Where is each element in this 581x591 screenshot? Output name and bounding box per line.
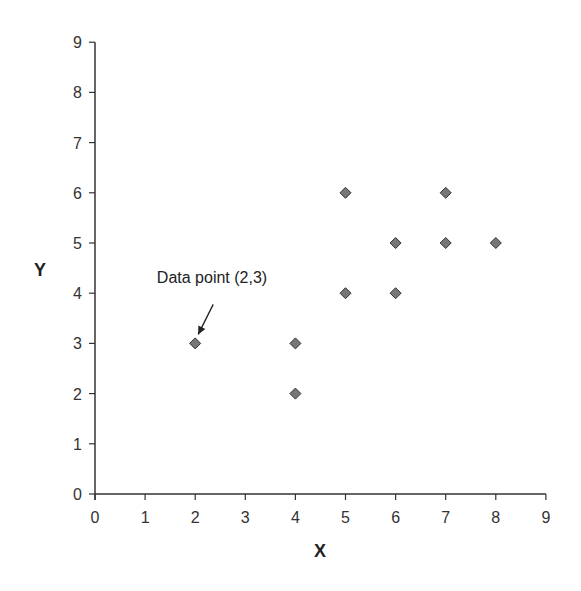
x-tick-label: 1 bbox=[141, 509, 150, 526]
scatter-chart: 01234567890123456789 Data point (2,3) X … bbox=[0, 0, 581, 591]
y-tick-label: 3 bbox=[73, 335, 82, 352]
data-point-marker bbox=[190, 338, 201, 349]
y-tick-label: 9 bbox=[73, 34, 82, 51]
x-tick-label: 6 bbox=[391, 509, 400, 526]
y-tick-label: 0 bbox=[73, 486, 82, 503]
data-point-marker bbox=[390, 288, 401, 299]
data-point-marker bbox=[440, 238, 451, 249]
data-point-marker bbox=[490, 238, 501, 249]
x-tick-label: 9 bbox=[541, 509, 550, 526]
data-points bbox=[190, 187, 502, 399]
y-tick-label: 7 bbox=[73, 135, 82, 152]
x-tick-label: 3 bbox=[241, 509, 250, 526]
x-tick-label: 7 bbox=[441, 509, 450, 526]
data-point-marker bbox=[340, 187, 351, 198]
data-point-marker bbox=[390, 238, 401, 249]
data-point-marker bbox=[290, 388, 301, 399]
data-point-marker bbox=[340, 288, 351, 299]
annotations: Data point (2,3) bbox=[157, 269, 267, 334]
data-point-marker bbox=[440, 187, 451, 198]
y-tick-label: 4 bbox=[73, 285, 82, 302]
x-tick-label: 5 bbox=[341, 509, 350, 526]
y-tick-label: 8 bbox=[73, 84, 82, 101]
data-point-marker bbox=[290, 338, 301, 349]
y-axis-title: Y bbox=[34, 260, 46, 280]
y-tick-label: 6 bbox=[73, 185, 82, 202]
y-tick-label: 1 bbox=[73, 436, 82, 453]
axes: 01234567890123456789 bbox=[73, 34, 550, 526]
x-tick-label: 2 bbox=[191, 509, 200, 526]
x-axis-title: X bbox=[314, 541, 326, 561]
x-tick-label: 4 bbox=[291, 509, 300, 526]
x-tick-label: 0 bbox=[91, 509, 100, 526]
x-tick-label: 8 bbox=[491, 509, 500, 526]
y-tick-label: 5 bbox=[73, 235, 82, 252]
annotation-label: Data point (2,3) bbox=[157, 269, 267, 286]
y-tick-label: 2 bbox=[73, 386, 82, 403]
